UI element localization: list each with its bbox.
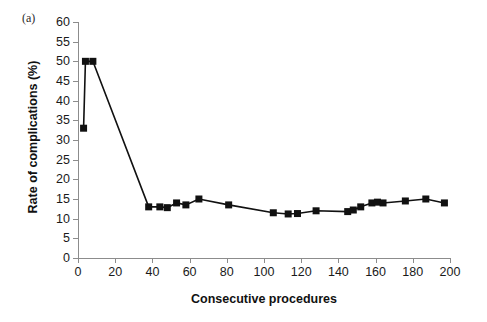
x-tick-label: 120 — [291, 265, 312, 279]
y-tick-label: 45 — [40, 74, 70, 88]
x-tick-label: 60 — [183, 265, 197, 279]
data-point-marker — [156, 203, 163, 210]
y-tick-label: 10 — [40, 212, 70, 226]
x-tick — [152, 258, 153, 263]
data-point-marker — [422, 196, 429, 203]
y-tick-label: 0 — [40, 251, 70, 265]
x-tick-label: 100 — [254, 265, 275, 279]
y-tick-label: 25 — [40, 153, 70, 167]
plot-area: 051015202530354045505560 020406080100120… — [78, 22, 450, 258]
x-tick — [78, 258, 79, 263]
x-tick — [450, 258, 451, 263]
x-tick — [338, 258, 339, 263]
y-tick-label: 35 — [40, 113, 70, 127]
data-point-marker — [294, 210, 301, 217]
data-point-marker — [350, 207, 357, 214]
y-tick-label: 60 — [40, 15, 70, 29]
data-point-marker — [441, 199, 448, 206]
x-tick — [190, 258, 191, 263]
x-tick — [115, 258, 116, 263]
data-point-marker — [182, 201, 189, 208]
x-tick-label: 40 — [145, 265, 159, 279]
x-tick — [376, 258, 377, 263]
data-point-marker — [313, 207, 320, 214]
data-point-marker — [195, 196, 202, 203]
data-point-marker — [173, 199, 180, 206]
y-tick-label: 50 — [40, 54, 70, 68]
y-tick-label: 15 — [40, 192, 70, 206]
data-point-marker — [80, 125, 87, 132]
series-line — [84, 61, 445, 214]
data-point-marker — [89, 58, 96, 65]
data-point-marker — [270, 209, 277, 216]
data-point-marker — [380, 199, 387, 206]
y-axis-title: Rate of complications (%) — [26, 12, 40, 262]
y-tick-label: 20 — [40, 172, 70, 186]
data-point-marker — [164, 204, 171, 211]
x-tick — [301, 258, 302, 263]
data-point-marker — [145, 203, 152, 210]
x-tick — [227, 258, 228, 263]
x-tick-label: 160 — [365, 265, 386, 279]
y-tick-label: 40 — [40, 94, 70, 108]
data-series-svg — [78, 22, 450, 258]
x-tick — [413, 258, 414, 263]
x-tick-label: 20 — [108, 265, 122, 279]
x-tick-label: 180 — [402, 265, 423, 279]
y-tick-label: 30 — [40, 133, 70, 147]
x-axis-title: Consecutive procedures — [78, 292, 450, 306]
x-tick-label: 80 — [220, 265, 234, 279]
x-tick — [264, 258, 265, 263]
data-point-marker — [357, 203, 364, 210]
x-tick-label: 0 — [75, 265, 82, 279]
y-tick-label: 5 — [40, 231, 70, 245]
data-point-marker — [225, 201, 232, 208]
series-markers — [80, 58, 448, 218]
data-point-marker — [402, 197, 409, 204]
data-point-marker — [82, 58, 89, 65]
y-tick-label: 55 — [40, 35, 70, 49]
x-tick-label: 140 — [328, 265, 349, 279]
x-tick-label: 200 — [440, 265, 461, 279]
data-point-marker — [285, 210, 292, 217]
figure-panel: (a) Rate of complications (%) Consecutiv… — [0, 0, 487, 322]
